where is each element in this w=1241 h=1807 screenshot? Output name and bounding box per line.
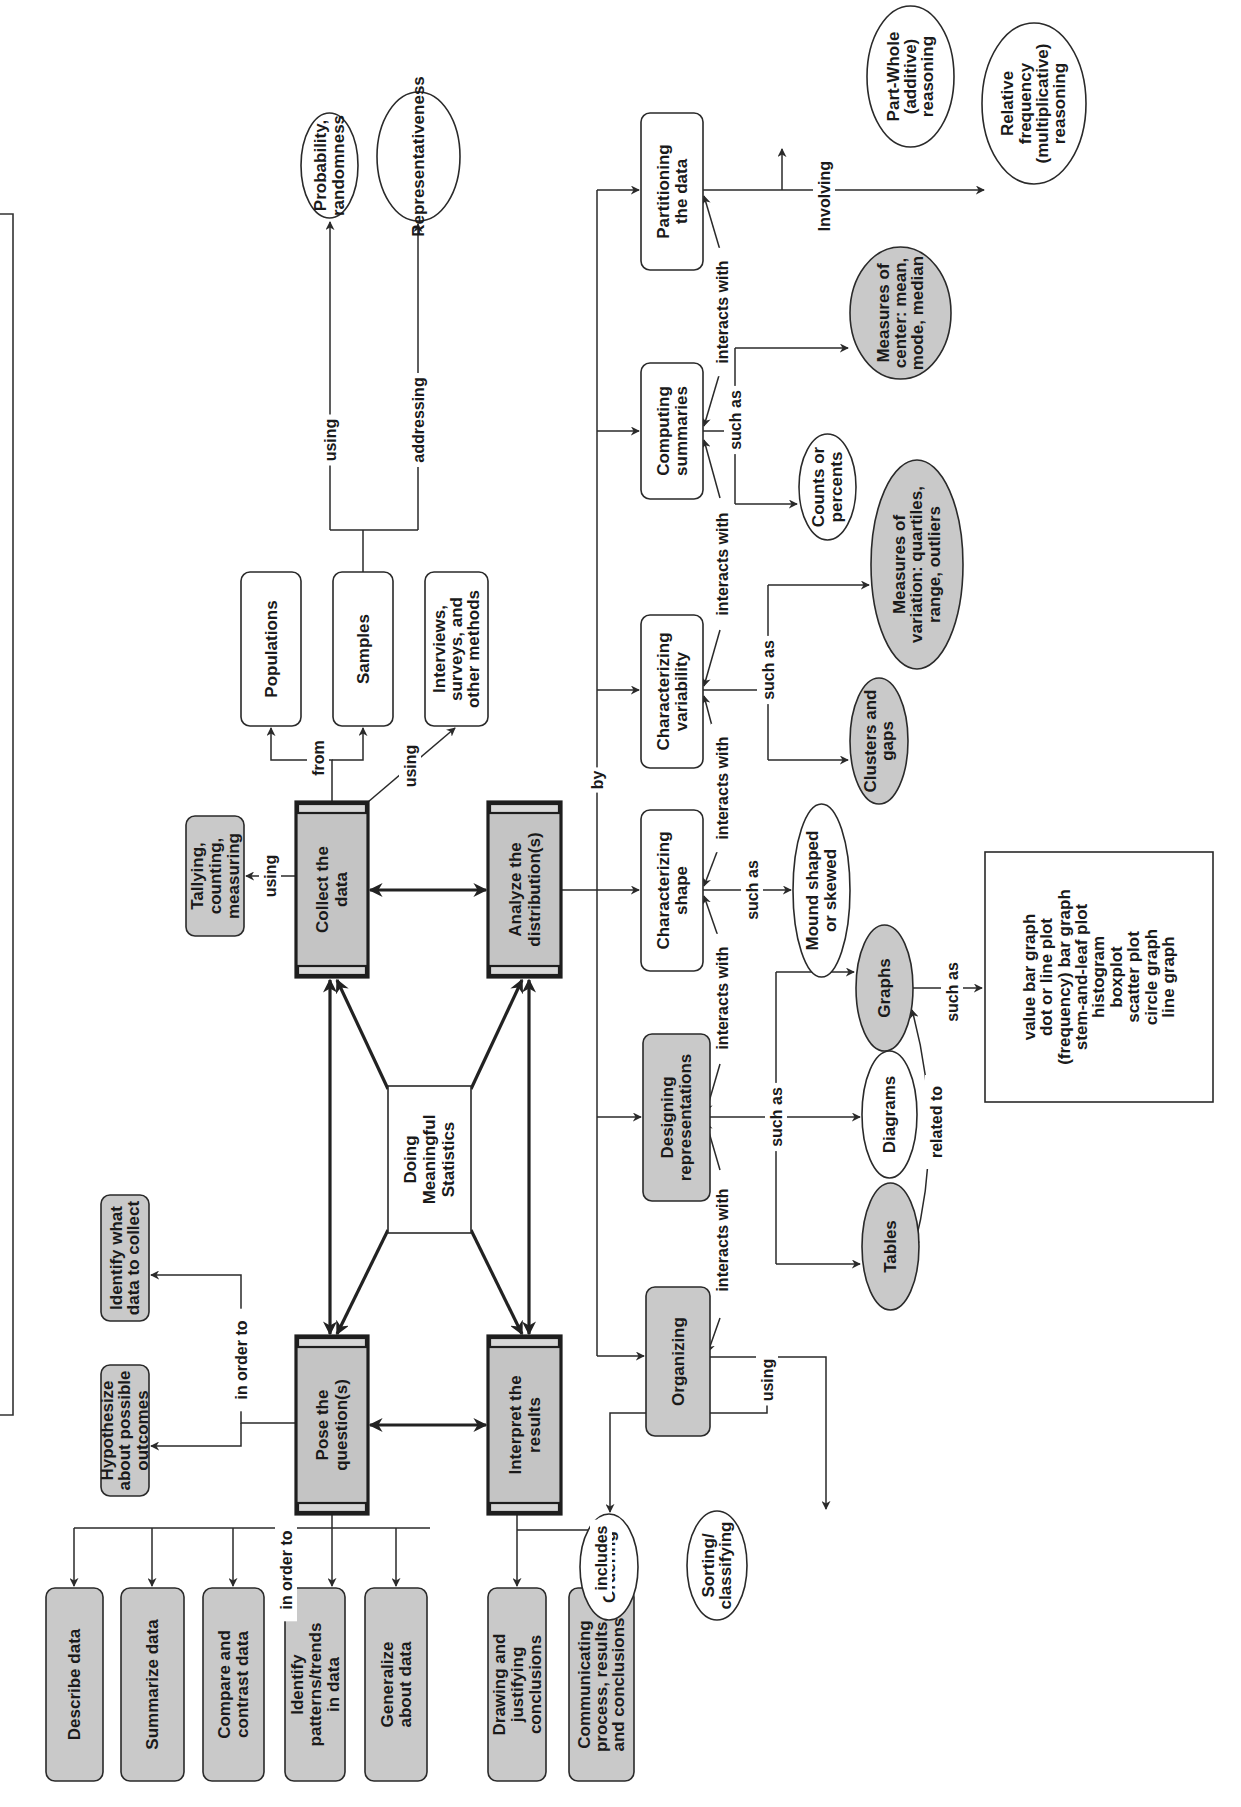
- label-interacts-variability-shape: interacts with: [711, 724, 733, 852]
- compare-contrast-box-label: Compare andcontrast data: [215, 1630, 252, 1739]
- graphs-ellipse: Graphs: [856, 925, 913, 1051]
- label-in-order-to-bottom: in order to: [275, 1519, 297, 1622]
- tallying-box-label: Tallying,counting,measuring: [188, 833, 243, 919]
- interviews-box: Interviews,surveys, andother methods: [425, 572, 488, 726]
- svg-text:in order to: in order to: [233, 1320, 250, 1399]
- label-by: by: [586, 767, 608, 792]
- center-concept-box: DoingMeaningfulStatistics: [388, 1086, 471, 1233]
- analyze-distributions-box: Analyze thedistribution(s): [488, 802, 561, 977]
- compare-contrast-box: Compare andcontrast data: [203, 1588, 264, 1781]
- partitioning-box: Partitioningthe data: [641, 113, 703, 270]
- relative-frequency-ellipse: Relativefrequency(multiplicative)reasoni…: [982, 23, 1086, 184]
- svg-text:from: from: [310, 740, 327, 776]
- label-in-order-to-top: in order to: [230, 1309, 252, 1412]
- svg-text:using: using: [759, 1359, 776, 1402]
- svg-text:using: using: [402, 745, 419, 788]
- label-includes: includes: [590, 1520, 612, 1597]
- designing-representations-box: Designingrepresentations: [643, 1034, 710, 1201]
- sorting-classifying-ellipse-label: Sorting/classifying: [699, 1522, 735, 1610]
- measures-center-ellipse: Measures ofcenter: mean,mode, median: [850, 247, 951, 379]
- organizing-box-label: Organizing: [669, 1317, 688, 1406]
- drawing-conclusions-box-label: Drawing andjustifyingconclusions: [490, 1633, 545, 1735]
- characterizing-variability-box: Characterizingvariability: [641, 615, 703, 768]
- probability-ellipse-label: Probability,randomness: [311, 115, 347, 216]
- populations-box: Populations: [241, 572, 301, 726]
- svg-text:interacts with: interacts with: [714, 736, 731, 839]
- label-interacts-shape-designing: interacts with: [711, 934, 733, 1062]
- collect-data-box: Collect thedata: [296, 802, 368, 977]
- label-such-as-variation: such as: [757, 636, 779, 704]
- svg-text:in order to: in order to: [278, 1530, 295, 1609]
- svg-text:addressing: addressing: [410, 377, 427, 462]
- label-addressing: addressing: [407, 373, 429, 467]
- graph-types-box: value bar graphdot or line plot(frequenc…: [985, 852, 1213, 1102]
- label-such-as-graphs: such as: [941, 958, 963, 1026]
- svg-text:using: using: [262, 855, 279, 898]
- pose-questions-box: Pose thequestion(s): [296, 1336, 368, 1514]
- measures-center-ellipse-label: Measures ofcenter: mean,mode, median: [874, 256, 928, 370]
- label-interacts-designing-organizing: interacts with: [711, 1176, 733, 1304]
- measures-variation-ellipse: Measures ofvariation: quartiles,range, o…: [871, 460, 963, 669]
- tallying-box: Tallying,counting,measuring: [186, 816, 244, 936]
- label-using-tally: using: [259, 851, 281, 902]
- summarize-data-box: Summarize data: [121, 1588, 184, 1781]
- tables-ellipse-label: Tables: [881, 1220, 900, 1273]
- svg-text:Involving: Involving: [816, 161, 833, 231]
- probability-ellipse: Probability,randomness: [301, 113, 358, 218]
- label-interacts-partition-computing: interacts with: [711, 248, 733, 376]
- part-whole-ellipse: Part-Whole(additive)reasoning: [867, 6, 954, 147]
- representativeness-ellipse-label: Representativeness: [409, 76, 428, 237]
- svg-text:such as: such as: [760, 640, 777, 700]
- generalize-box: Generalizeabout data: [365, 1588, 427, 1781]
- svg-text:by: by: [589, 771, 606, 790]
- describe-data-box: Describe data: [46, 1588, 103, 1781]
- computing-summaries-box-label: Computingsummaries: [654, 386, 691, 476]
- computing-summaries-box: Computingsummaries: [641, 363, 703, 499]
- label-using-organizing: using: [756, 1355, 778, 1406]
- drawing-conclusions-box: Drawing andjustifyingconclusions: [488, 1588, 546, 1781]
- generalize-box-label: Generalizeabout data: [378, 1641, 415, 1728]
- label-from: from: [307, 737, 329, 779]
- label-using-methods: using: [399, 741, 421, 792]
- svg-text:includes: includes: [593, 1525, 610, 1590]
- svg-text:such as: such as: [768, 1087, 785, 1147]
- label-interacts-computing-variability: interacts with: [711, 500, 733, 628]
- samples-box: Samples: [333, 572, 393, 726]
- mound-skewed-ellipse: Mound shapedor skewed: [793, 804, 850, 977]
- part-whole-ellipse-label: Part-Whole(additive)reasoning: [884, 32, 938, 122]
- analyze-distributions-box-label: Analyze thedistribution(s): [506, 832, 544, 946]
- label-such-as-shape: such as: [741, 856, 763, 924]
- svg-text:such as: such as: [744, 860, 761, 920]
- label-such-as-representations: such as: [765, 1083, 787, 1151]
- interpret-results-box: Interpret theresults: [488, 1336, 561, 1514]
- interviews-box-label: Interviews,surveys, andother methods: [430, 590, 484, 708]
- summarize-data-box-label: Summarize data: [143, 1619, 162, 1750]
- populations-box-label: Populations: [262, 600, 281, 697]
- tables-ellipse: Tables: [862, 1183, 919, 1310]
- sorting-classifying-ellipse: Sorting/classifying: [687, 1511, 747, 1620]
- title-frame: [0, 214, 13, 1415]
- pose-questions-box-label: Pose thequestion(s): [313, 1379, 351, 1471]
- characterizing-shape-box: Characterizingshape: [641, 810, 703, 971]
- svg-text:related to: related to: [928, 1086, 945, 1158]
- communicating-box-label: Communicatingprocess, results,and conclu…: [575, 1617, 629, 1752]
- clusters-gaps-ellipse: Clusters andgaps: [850, 678, 908, 804]
- svg-text:such as: such as: [727, 390, 744, 450]
- organizing-box: Organizing: [646, 1287, 710, 1436]
- label-related-to: related to: [925, 1075, 947, 1169]
- svg-text:interacts with: interacts with: [714, 1188, 731, 1291]
- diagrams-ellipse-label: Diagrams: [880, 1076, 899, 1153]
- statistics-concept-map: DoingMeaningfulStatisticsCollect thedata…: [0, 0, 1241, 1807]
- diagrams-ellipse: Diagrams: [862, 1051, 917, 1178]
- counts-percents-ellipse-label: Counts orpercents: [809, 446, 845, 527]
- label-involving: Involving: [813, 153, 835, 238]
- svg-text:interacts with: interacts with: [714, 946, 731, 1049]
- svg-text:using: using: [322, 419, 339, 462]
- counts-percents-ellipse: Counts orpercents: [799, 434, 856, 540]
- representativeness-ellipse: Representativeness: [377, 76, 460, 237]
- svg-text:interacts with: interacts with: [714, 260, 731, 363]
- graphs-ellipse-label: Graphs: [875, 958, 894, 1018]
- identify-what-to-collect-box-label: Identify whatdata to collect: [107, 1201, 143, 1316]
- identify-what-to-collect-box: Identify whatdata to collect: [101, 1195, 149, 1321]
- samples-box-label: Samples: [354, 614, 373, 684]
